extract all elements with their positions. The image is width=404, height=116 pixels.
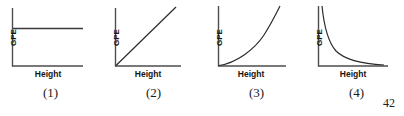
- y-axis-label-2: GPE: [112, 29, 121, 46]
- x-axis-label-4: Height: [326, 69, 380, 79]
- graph-caption-3: (3): [206, 85, 307, 100]
- x-axis-label-2: Height: [121, 69, 175, 79]
- graph-caption-1: (1): [0, 85, 101, 100]
- y-axis-label-3: GPE: [215, 29, 224, 46]
- curve-exponential: [219, 6, 280, 66]
- curve-linear: [116, 7, 176, 66]
- physics-graph-figure: g GPE Height (1) GPE Height (2) GPE Heig…: [0, 0, 404, 116]
- x-axis-label-3: Height: [224, 69, 278, 79]
- y-axis-label-1: GPE: [9, 29, 18, 46]
- y-axis-label-4: GPE: [315, 29, 324, 46]
- curve-inverse: [322, 6, 384, 65]
- graph-caption-2: (2): [103, 85, 204, 100]
- graph-panel-2: GPE Height (2): [103, 0, 204, 116]
- page-number: 42: [383, 96, 395, 110]
- graph-panel-1: GPE Height (1): [0, 0, 101, 116]
- graph-panel-3: GPE Height (3): [206, 0, 307, 116]
- x-axis-label-1: Height: [21, 69, 75, 79]
